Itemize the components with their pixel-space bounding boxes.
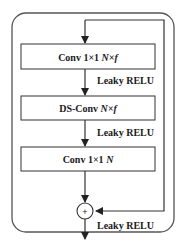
conv1-label: Conv 1×1: [58, 52, 101, 63]
sum-node: +: [77, 203, 93, 219]
dsconv-dims: N×f: [100, 103, 119, 114]
dsconv-label: DS-Conv: [59, 103, 100, 114]
conv2-label: Conv 1×1: [63, 154, 106, 165]
residual-block-diagram: Conv 1×1 N×f Leaky RELU DS-Conv N×f Leak…: [0, 0, 182, 244]
conv1-block: Conv 1×1 N×f: [21, 44, 155, 69]
activation-label-3: Leaky RELU: [97, 220, 154, 231]
plus-icon: +: [82, 207, 87, 217]
activation-label-1: Leaky RELU: [97, 75, 154, 86]
dsconv-block: DS-Conv N×f: [21, 96, 155, 120]
conv1-dims: N×f: [101, 52, 120, 63]
activation-label-2: Leaky RELU: [97, 127, 154, 138]
svg-text:Conv 1×1 N: Conv 1×1 N: [63, 154, 114, 165]
conv2-block: Conv 1×1 N: [21, 147, 155, 171]
svg-text:DS-Conv N×f: DS-Conv N×f: [59, 103, 118, 114]
conv2-dims: N: [105, 154, 114, 165]
svg-text:Conv 1×1 N×f: Conv 1×1 N×f: [58, 52, 119, 63]
